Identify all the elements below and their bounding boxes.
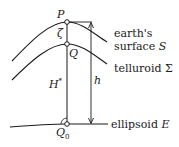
point-q-marker bbox=[65, 42, 70, 47]
label-zeta: ζ bbox=[57, 27, 64, 40]
label-q: Q bbox=[69, 47, 78, 60]
point-q0-marker bbox=[65, 122, 70, 127]
label-ellipsoid: ellipsoid E bbox=[111, 118, 169, 131]
label-h: h bbox=[94, 74, 101, 87]
label-q0: Q0 bbox=[56, 126, 70, 141]
label-h-star: H* bbox=[48, 77, 63, 91]
geodesy-diagram: P ζ Q H* h Q0 earth's surface S telluroi… bbox=[0, 0, 179, 147]
point-p-marker bbox=[65, 20, 70, 25]
label-earth-surface-line2: surface S bbox=[114, 40, 167, 53]
telluroid-curve bbox=[12, 44, 107, 80]
label-earth-surface-line1: earth's bbox=[114, 27, 153, 40]
label-telluroid: telluroid Σ bbox=[114, 62, 173, 75]
label-p: P bbox=[56, 8, 65, 21]
